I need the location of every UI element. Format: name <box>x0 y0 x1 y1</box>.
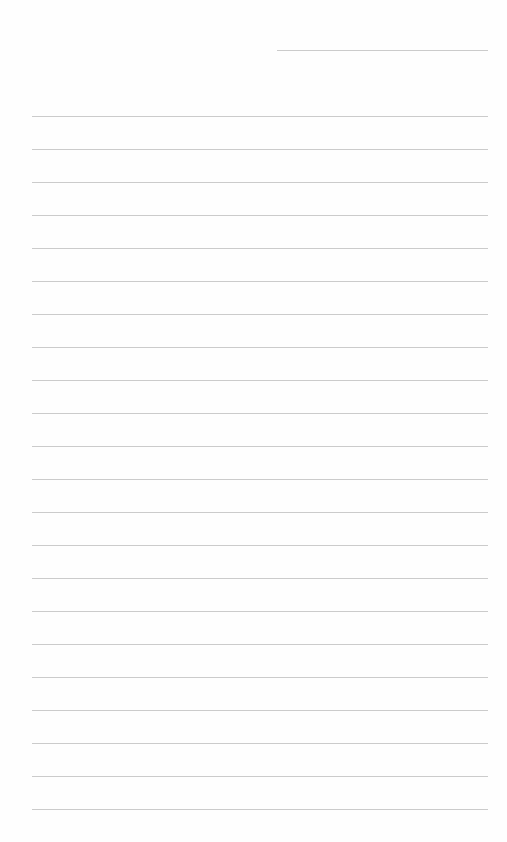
ruled-line <box>32 314 488 315</box>
ruled-line <box>32 677 488 678</box>
header-name-line <box>277 50 488 51</box>
ruled-line <box>32 380 488 381</box>
ruled-line <box>32 347 488 348</box>
ruled-line <box>32 116 488 117</box>
ruled-line <box>32 545 488 546</box>
ruled-line <box>32 611 488 612</box>
ruled-line <box>32 479 488 480</box>
ruled-line <box>32 644 488 645</box>
ruled-line <box>32 281 488 282</box>
ruled-line <box>32 413 488 414</box>
ruled-line <box>32 776 488 777</box>
ruled-line <box>32 578 488 579</box>
ruled-line <box>32 809 488 810</box>
ruled-line <box>32 446 488 447</box>
ruled-line <box>32 710 488 711</box>
ruled-line <box>32 149 488 150</box>
ruled-line <box>32 215 488 216</box>
lined-paper-page <box>0 0 507 842</box>
ruled-line <box>32 512 488 513</box>
ruled-line <box>32 743 488 744</box>
ruled-line <box>32 182 488 183</box>
ruled-line <box>32 248 488 249</box>
